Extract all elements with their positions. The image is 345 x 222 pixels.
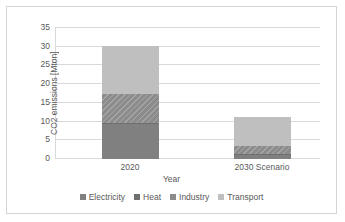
y-axis-title: CO2 emissions [Mton] [47, 28, 61, 159]
bar-segment-industry [102, 94, 159, 124]
legend-item-heat[interactable]: Heat [134, 192, 161, 202]
bar-segment-electricity [102, 124, 159, 159]
gridline: 30 [55, 46, 320, 47]
x-tick-label: 2030 Scenario [202, 162, 322, 172]
legend-swatch-icon [80, 194, 86, 200]
x-tick-label: 2020 [70, 162, 190, 172]
legend-item-transport[interactable]: Transport [218, 192, 263, 202]
bar-2020 [102, 46, 159, 159]
legend-item-electricity[interactable]: Electricity [80, 192, 125, 202]
bar-segment-industry [234, 146, 291, 154]
bar-2030-scenario [234, 117, 291, 159]
gridline: 15 [55, 102, 320, 103]
legend-label: Industry [179, 192, 209, 202]
legend-label: Transport [227, 192, 263, 202]
chart-frame: 05101520253035 20202030 Scenario CO2 emi… [6, 6, 337, 214]
legend-label: Heat [143, 192, 161, 202]
legend-label: Electricity [89, 192, 125, 202]
legend-swatch-icon [134, 194, 140, 200]
bar-segment-transport [234, 117, 291, 146]
chart-legend: ElectricityHeatIndustryTransport [7, 192, 336, 202]
gridline: 20 [55, 83, 320, 84]
gridline: 25 [55, 64, 320, 65]
bar-segment-electricity [234, 154, 291, 159]
legend-item-industry[interactable]: Industry [170, 192, 209, 202]
legend-swatch-icon [218, 194, 224, 200]
gridline: 35 [55, 27, 320, 28]
plot-area: 05101520253035 20202030 Scenario CO2 emi… [55, 28, 320, 159]
legend-swatch-icon [170, 194, 176, 200]
bar-segment-transport [102, 46, 159, 94]
x-axis-title: Year [7, 174, 336, 184]
